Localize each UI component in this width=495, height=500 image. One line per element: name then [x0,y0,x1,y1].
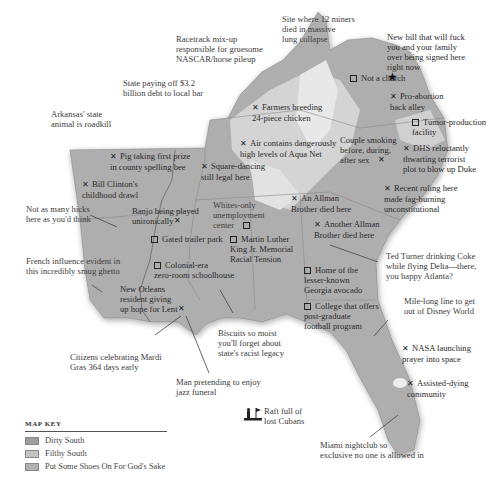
square-marker-icon [243,222,250,229]
map-key-item: Dirty South [25,436,167,445]
label-whites-only: Whites-only unemployment center [213,200,265,230]
label-tumor: Tumor-production facility [412,117,486,137]
label-allman-2: ✕Another Allman Brother died here [314,219,380,240]
label-allman-1: ✕An Allman Brother died here [291,193,351,214]
label-disney: Mile-long line to get out of Disney Worl… [404,296,475,316]
x-marker-icon: ✕ [240,139,248,149]
label-miami: Miami nightclub so exclusive no one is a… [320,440,424,460]
label-farmers: ✕Farmers breeding 24-piece chicken [252,102,322,123]
label-aqua-net: ✕Air contains dangerously high levels of… [240,138,336,159]
map-key: MAP KEY Dirty South Filthy South Put Som… [25,420,167,471]
square-marker-icon [304,267,311,274]
square-marker-icon [151,236,158,243]
label-colonial: Colonial-era zero-room schoolhouse [154,260,234,280]
label-not-church: Not a church [350,73,405,83]
map-key-item: Filthy South [25,449,167,458]
label-avocado: Home of the lesser-known Georgia avocado [304,265,362,295]
label-french: French influence evident in this incredi… [26,256,120,276]
label-couple: Couple smoking before, during, after sex… [340,135,397,165]
label-assisted: ✕Assisted-dying community [407,378,469,399]
label-gated: Gated trailer park [151,234,223,244]
x-marker-icon: ✕ [291,194,299,204]
label-college: College that offers post-graduate footba… [304,301,379,331]
x-marker-icon: ✕ [314,220,322,230]
label-jazz: Man pretending to enjoy jazz funeral [176,377,261,397]
square-marker-icon [230,236,237,243]
label-biscuits: Biscuits so moist you'll forget about st… [218,328,284,358]
swatch-dirty-south [25,437,39,445]
x-marker-icon: ✕ [384,184,392,194]
raft-icon [243,405,263,423]
label-pig: ✕Pig taking first prize in county spelli… [110,151,190,172]
x-marker-icon: ✕ [110,152,118,162]
map-key-item: Put Some Shoes On For God's Sake [25,462,167,471]
label-miners: Site where 12 miners died in massive lun… [282,14,355,44]
x-marker-icon: ✕ [174,216,182,226]
swatch-put-some-shoes-on [25,463,39,471]
label-mlk: Martin Luther King Jr. Memorial Racial T… [230,234,293,264]
label-mardi-gras: Citizens celebrating Mardi Gras 364 days… [70,352,162,372]
label-arkansas: Arkansas' state animal is roadkill [51,109,111,129]
map-key-title: MAP KEY [25,420,167,432]
x-marker-icon: ✕ [82,180,90,190]
label-dhs: ✕DHS reluctantly thwarting terrorist plo… [403,143,476,174]
x-marker-icon: ✕ [407,379,415,389]
square-marker-icon [304,303,311,310]
x-marker-icon: ✕ [402,344,410,354]
label-pro-abortion: ✕Pro-abortion back alley [390,91,443,112]
x-marker-icon: ✕ [201,162,209,172]
label-clinton: ✕Bill Clinton's childhood drawl [82,179,138,200]
x-marker-icon: ✕ [378,155,386,165]
label-debt: State paying off $3.2 billion debt to lo… [123,78,203,98]
label-recent-ruling: ✕Recent ruling here made fag-burning unc… [384,183,457,214]
label-nasa: ✕NASA launching prayer into space [402,343,471,364]
label-square-dancing: ✕Square-dancing still legal here [201,161,265,182]
label-hicks: Not as many hicks here as you'd think [26,204,91,224]
label-racetrack: Racetrack mix-up responsible for gruesom… [176,34,263,64]
x-marker-icon: ✕ [390,92,398,102]
square-marker-icon [154,262,161,269]
x-marker-icon: ✕ [178,304,186,314]
swatch-filthy-south [25,450,39,458]
label-new-orleans: New Orleans resident giving up hope for … [120,284,178,314]
label-banjo: Banjo being played unironically✕ [132,206,199,226]
x-marker-icon: ✕ [403,144,411,154]
square-marker-icon [412,119,419,126]
x-marker-icon: ✕ [252,103,260,113]
label-raft: Raft full of lost Cubans [264,406,304,426]
label-ted-turner: Ted Turner drinking Coke while flying De… [386,251,476,281]
square-marker-icon [350,75,357,82]
